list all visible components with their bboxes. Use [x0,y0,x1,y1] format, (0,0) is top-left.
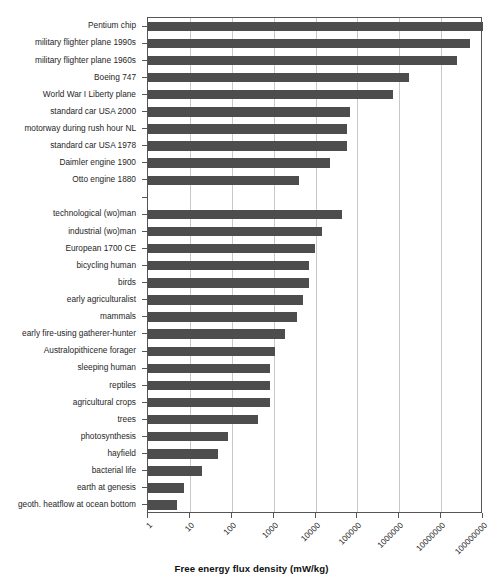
bar [148,381,270,390]
category-label: technological (wo)man [0,208,136,218]
category-label: standard car USA 2000 [0,106,136,116]
bar-row [148,18,481,35]
category-label: Daimler engine 1900 [0,157,136,167]
bar-row [148,86,481,103]
bar [148,261,309,270]
category-label: industrial (wo)man [0,226,136,236]
category-label: bicycling human [0,260,136,270]
bar-row [148,292,481,309]
bar-row [148,257,481,274]
bar-row [148,343,481,360]
value-tick-label-wrap: 10000 [298,520,321,543]
value-tick [482,513,483,518]
bar-row [148,463,481,480]
bar-row [148,480,481,497]
value-tick-label: 100000000 [453,520,489,556]
bar [148,227,322,236]
bar [148,158,330,167]
bar [148,295,303,304]
category-label: sleeping human [0,362,136,372]
bar [148,22,483,31]
bar [148,449,218,458]
value-tick-label-wrap: 1 [144,520,154,530]
category-label: military flighter plane 1960s [0,55,136,65]
value-tick [315,513,316,518]
bar [148,107,350,116]
value-tick [231,513,232,518]
category-label: trees [0,414,136,424]
bar [148,56,457,65]
value-tick-label-wrap: 100000000 [453,520,489,556]
bar [148,364,270,373]
category-label: military flighter plane 1990s [0,37,136,47]
bar-row [148,428,481,445]
bar [148,347,275,356]
bar-row [148,309,481,326]
bar [148,90,393,99]
bar [148,415,258,424]
bar [148,312,297,321]
value-tick-label-wrap: 1000000 [375,520,405,550]
bar-rows [148,18,481,512]
category-label: Boeing 747 [0,72,136,82]
category-label: geoth. heatflow at ocean bottom [0,499,136,509]
bar-row [148,240,481,257]
value-tick-label-wrap: 100 [221,520,238,537]
value-tick-label: 10000000 [414,520,447,553]
bar-row [148,394,481,411]
category-label: hayfield [0,448,136,458]
value-tick-label-wrap: 10 [182,520,196,534]
bar [148,141,347,150]
bar [148,244,315,253]
category-label: early fire-using gatherer-hunter [0,328,136,338]
category-label: birds [0,277,136,287]
bar [148,278,309,287]
value-tick [273,513,274,518]
bar-row [148,155,481,172]
category-label: Australopithicene forager [0,345,136,355]
bar-row [148,69,481,86]
bar-row [148,206,481,223]
value-tick-label: 100000 [337,520,364,547]
value-tick-label: 1000 [260,520,280,540]
bar-row [148,326,481,343]
value-tick-label: 10 [182,520,196,534]
value-tick [398,513,399,518]
category-axis: Pentium chipmilitary flighter plane 1990… [0,17,142,513]
free-energy-flux-density-bar-chart: Pentium chipmilitary flighter plane 1990… [0,0,503,588]
bar-row [148,497,481,514]
category-label: agricultural crops [0,397,136,407]
bar-row [148,446,481,463]
bar [148,398,270,407]
value-tick-label: 100 [221,520,238,537]
category-label: standard car USA 1978 [0,140,136,150]
bar [148,210,342,219]
bar-row [148,377,481,394]
value-tick [189,513,190,518]
bar-row [148,172,481,189]
plot-area [147,17,482,513]
value-tick-label-wrap: 10000000 [414,520,447,553]
category-label: bacterial life [0,465,136,475]
category-label: Otto engine 1880 [0,174,136,184]
category-label: World War I Liberty plane [0,89,136,99]
bar-row [148,411,481,428]
bar [148,483,184,492]
category-label: earth at genesis [0,482,136,492]
category-label: photosynthesis [0,431,136,441]
bar [148,124,347,133]
bar [148,39,470,48]
bar-row [148,35,481,52]
bar-row [148,52,481,69]
bar-row [148,104,481,121]
bar [148,500,177,509]
bar-row [148,223,481,240]
value-tick-label: 1000000 [375,520,405,550]
bar [148,466,202,475]
bar [148,73,409,82]
bar-row [148,138,481,155]
category-label: reptiles [0,380,136,390]
category-label: European 1700 CE [0,243,136,253]
category-label: early agriculturalist [0,294,136,304]
value-tick-label: 10000 [298,520,321,543]
